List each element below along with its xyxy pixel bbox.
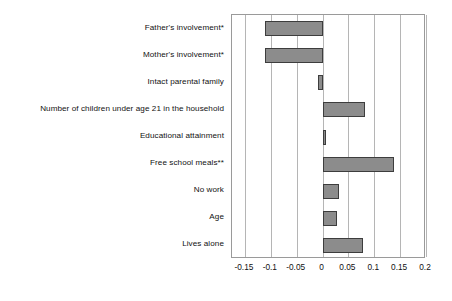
bar: [323, 130, 326, 145]
x-tick-label: -0.15: [234, 261, 253, 273]
category-label-number-of-children: Number of children under age 21 in the h…: [40, 104, 224, 114]
bar: [323, 102, 365, 117]
x-axis-tick-labels: -0.15-0.1-0.0500.050.10.150.2: [231, 261, 425, 275]
gridline-4: [348, 15, 349, 257]
gridline-6: [400, 15, 401, 257]
x-tick-label: 0: [319, 261, 324, 273]
category-label-intact-parental-family: Intact parental family: [148, 77, 224, 87]
bar: [318, 75, 322, 90]
bar: [265, 48, 322, 63]
category-label-free-school-meals: Free school meals**: [150, 158, 224, 168]
gridline-0: [245, 15, 246, 257]
category-label-educational-attainment: Educational attainment: [140, 131, 224, 141]
x-tick-label: 0.1: [367, 261, 379, 273]
gridline-5: [374, 15, 375, 257]
bar: [323, 238, 364, 253]
plot-area: [231, 14, 425, 258]
category-label-no-work: No work: [194, 185, 224, 195]
category-label-lives-alone: Lives alone: [182, 239, 224, 249]
bar: [323, 157, 395, 172]
category-axis-labels: Father's involvement* Mother's involveme…: [0, 14, 228, 258]
x-tick-label: 0.15: [391, 261, 407, 273]
gridline-7: [426, 15, 427, 257]
category-label-mothers-involvement: Mother's involvement*: [143, 50, 224, 60]
x-tick-label: 0.05: [339, 261, 355, 273]
bar: [323, 184, 339, 199]
x-tick-label: -0.05: [286, 261, 305, 273]
bar: [265, 21, 322, 36]
bar-chart: Father's involvement* Mother's involveme…: [0, 0, 452, 301]
category-label-fathers-involvement: Father's involvement*: [145, 23, 224, 33]
category-label-age: Age: [209, 212, 224, 222]
x-tick-label: -0.1: [263, 261, 277, 273]
x-tick-label: 0.2: [419, 261, 431, 273]
bar: [323, 211, 337, 226]
